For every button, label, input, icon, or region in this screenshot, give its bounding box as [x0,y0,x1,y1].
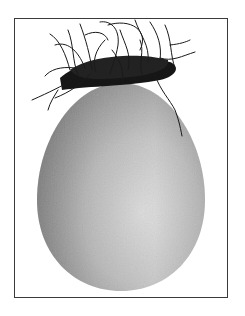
egg [37,83,205,291]
egg-photo [0,0,245,316]
